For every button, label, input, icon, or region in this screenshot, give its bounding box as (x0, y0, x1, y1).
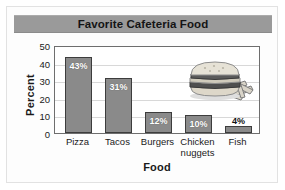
y-axis-ticks: 0 10 20 30 40 50 (30, 46, 50, 134)
bar-value-burgers: 12% (146, 116, 171, 126)
bar-tacos: 31% (105, 78, 132, 133)
x-axis-ticks: Pizza Tacos Burgers Chickennuggets Fish (54, 136, 260, 162)
x-tick-chicken-nuggets: Chickennuggets (177, 136, 218, 158)
chart-card: Favorite Cafeteria Food Percent 0 10 20 … (6, 6, 278, 183)
bar-value-chicken-nuggets: 10% (186, 119, 211, 129)
bar-value-tacos: 31% (106, 82, 131, 92)
y-tick-40: 40 (39, 58, 50, 69)
y-tick-0: 0 (45, 129, 50, 140)
x-tick-tacos: Tacos (97, 136, 138, 147)
bar-series: 43% 31% 12% 10% 4% (55, 47, 259, 133)
y-tick-10: 10 (39, 111, 50, 122)
bar-burgers: 12% (145, 112, 172, 133)
y-tick-30: 30 (39, 76, 50, 87)
bar-fish: 4% (225, 126, 252, 133)
bar-value-fish: 4% (220, 116, 257, 126)
page-title: Favorite Cafeteria Food (78, 18, 209, 30)
bar-pizza: 43% (65, 57, 92, 133)
bar-chart: Percent 0 10 20 30 40 50 (14, 37, 272, 177)
bar-chicken-nuggets: 10% (185, 115, 212, 133)
x-axis-title: Food (54, 161, 260, 173)
x-tick-pizza: Pizza (57, 136, 98, 147)
chart-title-band: Favorite Cafeteria Food (14, 15, 272, 33)
bar-value-pizza: 43% (66, 61, 91, 71)
x-tick-fish: Fish (217, 136, 258, 147)
x-tick-burgers: Burgers (137, 136, 178, 147)
y-tick-50: 50 (39, 41, 50, 52)
plot-area: 43% 31% 12% 10% 4% (54, 46, 260, 134)
y-tick-20: 20 (39, 93, 50, 104)
